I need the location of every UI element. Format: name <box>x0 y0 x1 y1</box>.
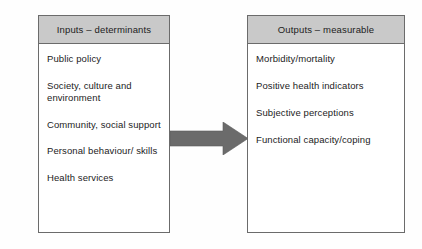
list-item: Functional capacity/coping <box>256 134 404 147</box>
list-item: Positive health indicators <box>256 80 404 93</box>
list-item: Public policy <box>47 53 169 66</box>
list-item: Personal behaviour/ skills <box>47 145 169 158</box>
list-item: Subjective perceptions <box>256 107 404 120</box>
list-item: Morbidity/mortality <box>256 53 404 66</box>
outputs-box: Outputs – measurable Morbidity/mortality… <box>247 15 405 233</box>
right-arrow-icon <box>170 122 248 155</box>
outputs-box-body: Morbidity/mortality Positive health indi… <box>248 44 404 232</box>
list-item: Health services <box>47 172 169 185</box>
outputs-box-header: Outputs – measurable <box>248 16 404 44</box>
list-item: Community, social support <box>47 119 169 132</box>
inputs-box-header: Inputs – determinants <box>39 16 169 44</box>
list-item: Society, culture and environment <box>47 80 169 105</box>
inputs-box-body: Public policy Society, culture and envir… <box>39 44 169 232</box>
inputs-outputs-diagram: Inputs – determinants Public policy Soci… <box>0 0 422 249</box>
inputs-box: Inputs – determinants Public policy Soci… <box>38 15 170 233</box>
